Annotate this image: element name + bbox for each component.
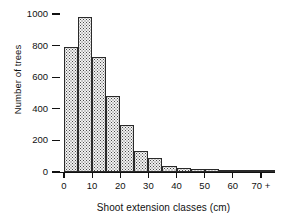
x-axis-tick-mark [232, 173, 233, 178]
histogram-figure: Number of trees 02004006008001000 010203… [0, 0, 287, 220]
y-axis-tick-label: 1000 [0, 9, 48, 19]
y-axis-tick-mark [52, 77, 60, 78]
x-axis-tick-mark [176, 173, 177, 178]
x-axis-tick-mark [63, 173, 64, 178]
histogram-bar [148, 158, 162, 172]
x-axis-line [55, 172, 275, 173]
x-axis-tick-mark [204, 173, 205, 178]
histogram-bar [106, 96, 120, 172]
x-axis-title: Shoot extension classes (cm) [56, 202, 271, 213]
histogram-bar [78, 17, 92, 172]
x-axis-tick-mark [260, 173, 261, 178]
histogram-bar [92, 57, 106, 172]
y-axis-tick-mark [52, 13, 60, 14]
y-axis-tick-mark [52, 108, 60, 109]
histogram-bar [64, 47, 78, 172]
y-axis-tick-label: 200 [0, 135, 48, 145]
x-axis-tick-label: 70 + [245, 181, 277, 191]
x-axis-tick-mark [92, 173, 93, 178]
histogram-bar [120, 125, 134, 172]
histogram-bar [134, 151, 148, 172]
x-axis-tick-mark [120, 173, 121, 178]
y-axis-tick-label: 600 [0, 72, 48, 82]
y-axis-tick-label: 400 [0, 104, 48, 114]
y-axis-tick-label: 0 [0, 167, 48, 177]
y-axis-tick-label: 800 [0, 41, 48, 51]
y-axis-tick-mark [52, 45, 60, 46]
y-axis-tick-mark [52, 140, 60, 141]
x-axis-tick-mark [148, 173, 149, 178]
